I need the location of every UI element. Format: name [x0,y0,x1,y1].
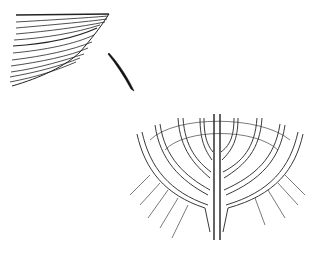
stem-piece [108,53,134,91]
body-plan [130,114,305,240]
bow-planking [10,14,109,86]
hull-drawing [0,0,322,258]
